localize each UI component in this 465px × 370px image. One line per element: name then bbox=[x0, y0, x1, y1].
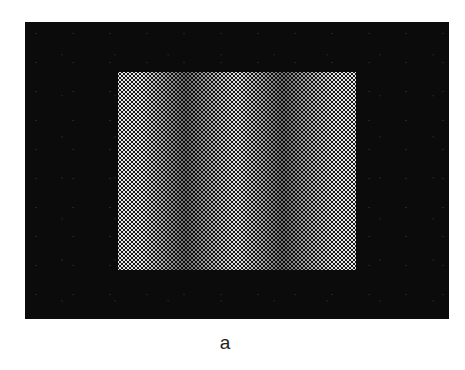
halftone-dot-pattern bbox=[118, 72, 356, 270]
panel-label: a bbox=[216, 332, 234, 354]
sinusoidal-grating-stimulus bbox=[118, 72, 356, 270]
